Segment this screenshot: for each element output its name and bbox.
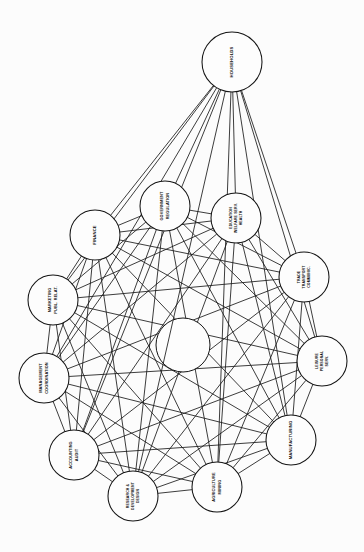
node-finance[interactable]: FINANCE [70, 210, 120, 260]
edge-trade-transport-communic-to-finance [120, 240, 280, 272]
node-label-marketing-publ-relat-line-1: MARKETING [47, 288, 52, 313]
node-label-group-finance: FINANCE [92, 225, 97, 245]
node-accounting-audit[interactable]: ACCOUNTINGAUDIT [49, 430, 99, 480]
edge-leisure-personal-serv-to-manufacturing [300, 384, 313, 416]
node-label-education-welfare-health-line-3: HEALTH [239, 210, 243, 225]
node-label-agriculture-mining-line-2: MINING [217, 480, 222, 495]
node-education-welfare-health[interactable]: EDUCATIONWELFARE SERV.HEALTH [211, 193, 261, 243]
node-label-leisure-personal-serv-line-1: LEISURE [315, 352, 319, 369]
node-label-government-regulation-line-2: REGULATION [165, 193, 170, 220]
hub-edge-households-to-manufacturing [237, 92, 288, 416]
node-label-leisure-personal-serv-line-2: PERSONAL [320, 350, 324, 371]
node-label-trade-transport-communic-line-2: TRANSPORT [302, 265, 306, 289]
node-label-group-government-regulation: GOVERNMENTREGULATION [159, 191, 169, 221]
edge-accounting-audit-to-management-coordination [53, 401, 65, 431]
edge-marketing-publ-relat-to-finance [67, 256, 82, 279]
node-label-finance-line-1: FINANCE [92, 225, 97, 245]
node-research-development-design[interactable]: RESEARCH &DEVELOPMENTDESIGN [108, 471, 158, 521]
edge-management-coordination-to-marketing-publ-relat [47, 325, 50, 353]
node-label-trade-transport-communic-line-3: COMMUNIC. [307, 266, 311, 288]
node-households[interactable]: HOUSEHOLDS [202, 32, 262, 92]
node-label-group-households: HOUSEHOLDS [229, 47, 234, 78]
edge-manufacturing-to-management-coordination [68, 384, 267, 434]
hub-edge-households-to-government-regulation [176, 89, 220, 183]
node-label-trade-transport-communic-line-1: TRADE [297, 270, 301, 283]
edge-government-regulation-to-education-welfare-health [190, 210, 212, 214]
node-label-agriculture-mining-line-1: AGRICULTURE [211, 472, 216, 502]
node-label-manufacturing-line-1: MANUFACTURING [288, 421, 293, 460]
node-label-marketing-publ-relat-line-2: PUBL. RELAT. [53, 286, 58, 314]
node-trade-transport-communic[interactable]: TRADETRANSPORTCOMMUNIC. [279, 252, 329, 302]
node-agriculture-mining[interactable]: AGRICULTUREMINING [192, 462, 242, 512]
node-label-group-marketing-publ-relat: MARKETINGPUBL. RELAT. [47, 286, 57, 314]
node-label-research-development-design-line-2: DEVELOPMENT [131, 481, 135, 510]
node-marketing-publ-relat[interactable]: MARKETINGPUBL. RELAT. [28, 275, 78, 325]
node-label-households-line-1: HOUSEHOLDS [229, 47, 234, 78]
node-leisure-personal-serv[interactable]: LEISUREPERSONALSERV. [297, 336, 347, 386]
node-label-group-manufacturing: MANUFACTURING [288, 421, 293, 460]
node-label-accounting-audit-line-1: ACCOUNTING [68, 441, 73, 469]
node-manufacturing[interactable]: MANUFACTURING [266, 415, 316, 465]
node-government-regulation[interactable]: GOVERNMENTREGULATION [140, 181, 190, 231]
node-label-leisure-personal-serv-line-3: SERV. [325, 356, 329, 367]
node-label-education-welfare-health-line-1: EDUCATION [229, 207, 233, 229]
node-label-research-development-design-line-3: DESIGN [136, 489, 140, 503]
node-label-education-welfare-health-line-2: WELFARE SERV. [234, 203, 238, 233]
node-management-coordination[interactable]: MANAGEMENTCOORDINATION [19, 353, 69, 403]
edge-leisure-personal-serv-to-finance [117, 247, 300, 349]
node-label-management-coordination-line-2: COORDINATION [44, 362, 49, 394]
node-label-government-regulation-line-1: GOVERNMENT [159, 191, 164, 221]
center-mask-layer [156, 318, 210, 372]
edge-research-development-design-to-accounting-audit [95, 469, 113, 481]
node-label-research-development-design-line-1: RESEARCH & [126, 483, 130, 508]
edge-government-regulation-to-finance [118, 216, 142, 226]
edge-agriculture-mining-to-research-development-design [158, 490, 192, 494]
node-label-group-management-coordination: MANAGEMENTCOORDINATION [38, 362, 48, 394]
network-diagram-page: GOVERNMENTREGULATIONEDUCATIONWELFARE SER… [0, 0, 364, 552]
hub-edge-households-to-agriculture-mining [218, 92, 231, 462]
node-label-management-coordination-line-1: MANAGEMENT [38, 363, 43, 393]
network-diagram-canvas: GOVERNMENTREGULATIONEDUCATIONWELFARE SER… [0, 0, 364, 552]
hub-edge-households-to-education-welfare-health [233, 92, 236, 193]
node-label-accounting-audit-line-2: AUDIT [74, 448, 79, 461]
hub-edge-households-to-accounting-audit [83, 90, 220, 432]
